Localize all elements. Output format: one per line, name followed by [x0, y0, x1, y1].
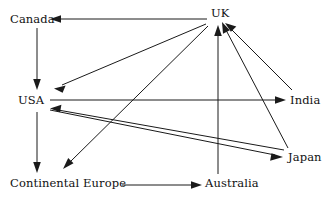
node-usa[interactable]: USA [18, 95, 44, 107]
edge-uk-to-continental-europe [63, 26, 208, 169]
edge-usa-to-india [50, 96, 286, 104]
edge-usa-to-continental-europe [33, 112, 41, 173]
graph-edges-layer [0, 0, 334, 204]
node-uk[interactable]: UK [211, 8, 229, 20]
edge-continental-europe-to-australia [122, 181, 202, 189]
edge-usa-to-japan [50, 110, 283, 161]
diagram-canvas: Canada UK USA India Japan Continental Eu… [0, 0, 334, 204]
node-continental-europe[interactable]: Continental Europe [10, 178, 126, 190]
edge-canada-to-usa [33, 28, 41, 90]
edge-japan-to-usa [50, 105, 284, 150]
edge-uk-to-canada [50, 15, 207, 23]
node-australia[interactable]: Australia [205, 178, 259, 190]
arrowhead-usa-top [33, 79, 41, 90]
arrowhead-continental-europe-top [33, 162, 41, 173]
edge-uk-to-usa [54, 24, 206, 93]
node-canada[interactable]: Canada [10, 14, 55, 26]
arrowhead-uk-from-australia [214, 25, 222, 36]
edge-japan-to-uk [222, 22, 288, 148]
edge-india-to-uk [225, 23, 292, 90]
node-japan[interactable]: Japan [288, 152, 322, 164]
arrowhead-australia [191, 181, 202, 189]
arrowhead-india [275, 96, 286, 104]
arrowhead-japan [270, 153, 283, 161]
arrowhead-usa-diag [54, 86, 66, 93]
node-india[interactable]: India [290, 95, 320, 107]
